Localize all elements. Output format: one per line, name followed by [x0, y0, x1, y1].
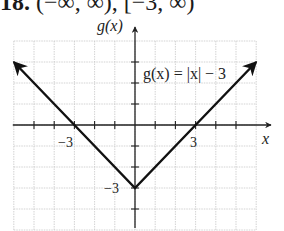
x-tick-label-3: 3 [190, 135, 197, 150]
x-tick-label-neg3: −3 [58, 135, 73, 150]
y-tick-label-neg3: −3 [104, 181, 119, 196]
x-axis-label: x [261, 130, 269, 147]
graph: g(x)x−33−3g(x) = |x| − 3 [0, 0, 284, 231]
axis-labels: g(x)x−33−3g(x) = |x| − 3 [58, 17, 269, 196]
axes [13, 27, 271, 228]
function-label: g(x) = |x| − 3 [143, 65, 226, 83]
y-axis-label: g(x) [97, 17, 123, 35]
